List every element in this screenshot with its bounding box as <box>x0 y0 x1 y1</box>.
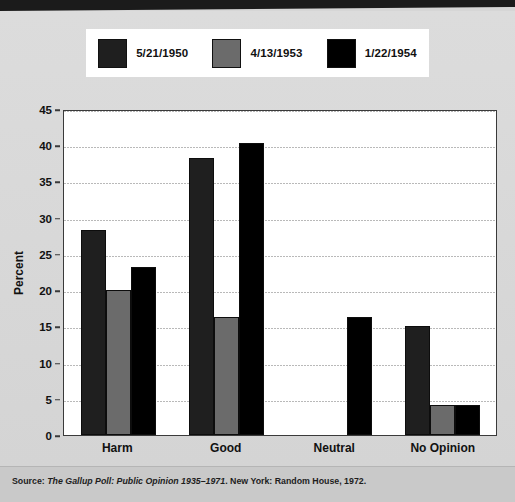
y-axis-tick-label: 20 <box>39 285 52 297</box>
footer-bar: Source: The Gallup Poll: Public Opinion … <box>0 466 515 502</box>
legend-label: 5/21/1950 <box>136 47 188 59</box>
bar-group <box>388 111 496 435</box>
bar <box>430 405 455 435</box>
source-caption: Source: The Gallup Poll: Public Opinion … <box>12 476 366 486</box>
y-axis-tick-label: 0 <box>46 430 52 442</box>
y-axis-tick-label: 25 <box>39 249 52 261</box>
bar <box>405 326 430 435</box>
source-suffix: . New York: Random House, 1972. <box>225 476 366 486</box>
x-axis-label: Neutral <box>280 441 389 455</box>
bar <box>106 290 131 435</box>
y-axis-tick-label: 35 <box>39 176 52 188</box>
chart-legend: 5/21/19504/13/19531/22/1954 <box>86 29 429 77</box>
bar-group <box>172 111 280 435</box>
y-axis-tick-mark <box>55 363 60 365</box>
source-title: The Gallup Poll: Public Opinion 1935–197… <box>47 476 225 486</box>
y-axis-tick-label: 5 <box>46 394 52 406</box>
x-axis-label: Harm <box>63 441 172 455</box>
bar-group <box>64 111 172 435</box>
y-axis-tick-label: 40 <box>39 140 52 152</box>
y-axis-tick-mark <box>55 109 60 111</box>
bar <box>131 267 156 435</box>
plot-area <box>63 110 497 436</box>
top-banner-decoration <box>0 0 515 11</box>
y-axis-tick-label: 15 <box>39 321 52 333</box>
y-axis-tick-mark <box>55 290 60 292</box>
x-axis-label: No Opinion <box>389 441 498 455</box>
y-axis-tick-mark <box>55 145 60 147</box>
bar <box>455 405 480 435</box>
bar <box>189 158 214 435</box>
legend-item: 5/21/1950 <box>98 39 188 68</box>
legend-swatch-1 <box>98 39 127 68</box>
bar-group <box>280 111 388 435</box>
y-axis-tick-label: 10 <box>39 358 52 370</box>
legend-item: 1/22/1954 <box>327 39 417 68</box>
legend-swatch-2 <box>212 39 241 68</box>
y-axis-ticks: 051015202530354045 <box>0 110 60 436</box>
bar <box>81 230 106 435</box>
y-axis-tick-mark <box>55 327 60 329</box>
y-axis-tick-mark <box>55 218 60 220</box>
bar <box>214 317 239 435</box>
legend-item: 4/13/1953 <box>212 39 302 68</box>
y-axis-tick-label: 30 <box>39 213 52 225</box>
chart-page: 5/21/19504/13/19531/22/1954 Percent 0510… <box>0 11 515 466</box>
x-axis-label: Good <box>172 441 281 455</box>
y-axis-tick-label: 45 <box>39 104 52 116</box>
source-prefix: Source: <box>12 476 47 486</box>
legend-swatch-3 <box>327 39 356 68</box>
y-axis-tick-mark <box>55 435 60 437</box>
legend-label: 4/13/1953 <box>250 47 302 59</box>
bar <box>239 143 264 435</box>
y-axis-tick-mark <box>55 254 60 256</box>
legend-label: 1/22/1954 <box>365 47 417 59</box>
x-axis-labels: HarmGoodNeutralNo Opinion <box>63 441 497 455</box>
bar <box>347 317 372 435</box>
bars-container <box>64 111 496 435</box>
y-axis-tick-mark <box>55 182 60 184</box>
y-axis-tick-mark <box>55 399 60 401</box>
